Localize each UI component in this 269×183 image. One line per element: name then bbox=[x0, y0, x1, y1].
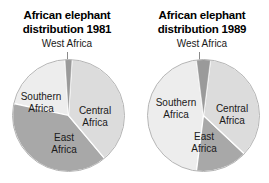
chart-title-line1: African elephant bbox=[159, 9, 246, 21]
chart-title-line2: distribution 1989 bbox=[135, 23, 269, 37]
chart-panel-1989: African elephant distribution 1989 West … bbox=[135, 0, 269, 183]
pie-chart-1981: Southern Africa Central Africa East Afri… bbox=[12, 59, 125, 172]
chart-title-1981: African elephant distribution 1981 bbox=[0, 9, 134, 36]
callout-label-west-africa-1981: West Africa bbox=[0, 38, 134, 50]
pie-slice-southern-africa-1989 bbox=[147, 60, 203, 171]
chart-title-1989: African elephant distribution 1989 bbox=[135, 9, 269, 36]
pie-chart-1989: Southern Africa Central Africa East Afri… bbox=[147, 59, 260, 172]
callout-label-west-africa-1989: West Africa bbox=[135, 38, 269, 50]
pie-svg-1989 bbox=[147, 59, 260, 172]
pie-svg-1981 bbox=[12, 59, 125, 172]
chart-panel-1981: African elephant distribution 1981 West … bbox=[0, 0, 134, 183]
chart-title-line2: distribution 1981 bbox=[0, 23, 134, 37]
figure-root: African elephant distribution 1981 West … bbox=[0, 0, 269, 183]
chart-title-line1: African elephant bbox=[24, 9, 111, 21]
